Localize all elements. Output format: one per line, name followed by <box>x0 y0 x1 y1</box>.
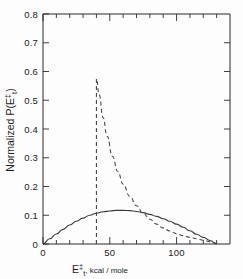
x-axis-ticks <box>43 14 217 244</box>
y-axis-title: Normalized P(E‡t) <box>3 88 19 171</box>
y-tick-label: 0.2 <box>24 181 38 192</box>
y-tick-label: 0.8 <box>24 9 38 20</box>
x-tick-label: 50 <box>104 247 115 258</box>
figure-container: 0 0.1 0.2 0.3 0.4 0.5 0.6 0.7 0.8 <box>0 0 243 279</box>
svg-text:E‡t, kcal / mole: E‡t, kcal / mole <box>72 262 129 278</box>
x-axis-title-symbol: E <box>72 263 79 275</box>
plot-frame <box>43 14 230 244</box>
x-tick-label: 100 <box>168 247 184 258</box>
x-axis-title: E‡t, kcal / mole <box>72 262 129 278</box>
y-axis-title-close-paren: ) <box>4 88 16 92</box>
curve-observed-distribution <box>43 210 217 244</box>
translational-energy-distribution-chart: 0 0.1 0.2 0.3 0.4 0.5 0.6 0.7 0.8 <box>0 0 243 279</box>
y-tick-labels: 0 0.1 0.2 0.3 0.4 0.5 0.6 0.7 0.8 <box>24 9 38 250</box>
y-tick-label: 0.6 <box>24 66 38 77</box>
y-tick-label: 0.1 <box>24 210 38 221</box>
x-axis-title-units: , kcal / mole <box>85 266 128 275</box>
y-tick-label: 0.4 <box>24 124 38 135</box>
y-axis-ticks <box>43 14 230 244</box>
x-tick-labels: 0 50 100 <box>40 247 185 258</box>
curve-prior-distribution <box>96 79 216 244</box>
x-tick-label: 0 <box>40 247 45 258</box>
y-tick-label: 0.7 <box>24 37 38 48</box>
y-axis-title-text: Normalized P(E <box>4 98 16 172</box>
svg-text:Normalized P(E‡t): Normalized P(E‡t) <box>3 88 19 171</box>
y-tick-label: 0.3 <box>24 152 38 163</box>
data-series-group <box>43 79 217 244</box>
y-tick-label: 0 <box>33 239 38 250</box>
y-tick-label: 0.5 <box>24 95 38 106</box>
